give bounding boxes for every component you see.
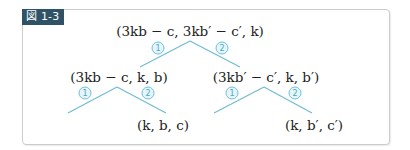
right-child-branch-right-number: 2 <box>289 87 302 100</box>
left-child-branch-left <box>68 87 117 113</box>
root-branch-right-number: 2 <box>216 42 229 55</box>
left-child-node: (3kb − c, k, b) <box>70 69 167 85</box>
right-child-branch-left <box>214 87 264 113</box>
left-child-branch-left-number: 1 <box>79 87 92 100</box>
root-branch-left <box>140 41 190 67</box>
right-child-node: (3kb′ − c′, k, b′) <box>213 69 320 85</box>
left-leaf-node: (k, b, c) <box>137 117 189 133</box>
root-node: (3kb − c, 3kb′ − c′, k) <box>116 23 264 39</box>
right-leaf-node: (k, b′, c′) <box>285 117 343 133</box>
left-child-branch-right-number: 2 <box>142 87 155 100</box>
root-branch-left-number: 1 <box>152 42 165 55</box>
right-child-branch-left-number: 1 <box>226 87 239 100</box>
